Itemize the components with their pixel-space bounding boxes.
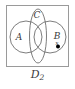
caption-subscript: 2 xyxy=(40,73,45,82)
caption-symbol: D xyxy=(31,68,40,81)
set-label-a: A xyxy=(15,32,23,42)
figure-caption: D2 xyxy=(0,68,75,84)
set-label-c: C xyxy=(34,10,41,20)
point-dot xyxy=(56,45,60,49)
venn-figure: A C B x D2 xyxy=(0,0,75,89)
